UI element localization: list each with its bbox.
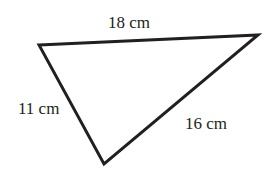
side-label-left: 11 cm	[18, 100, 59, 117]
side-label-top: 18 cm	[108, 14, 150, 31]
side-label-right: 16 cm	[185, 115, 227, 132]
triangle	[39, 35, 258, 164]
